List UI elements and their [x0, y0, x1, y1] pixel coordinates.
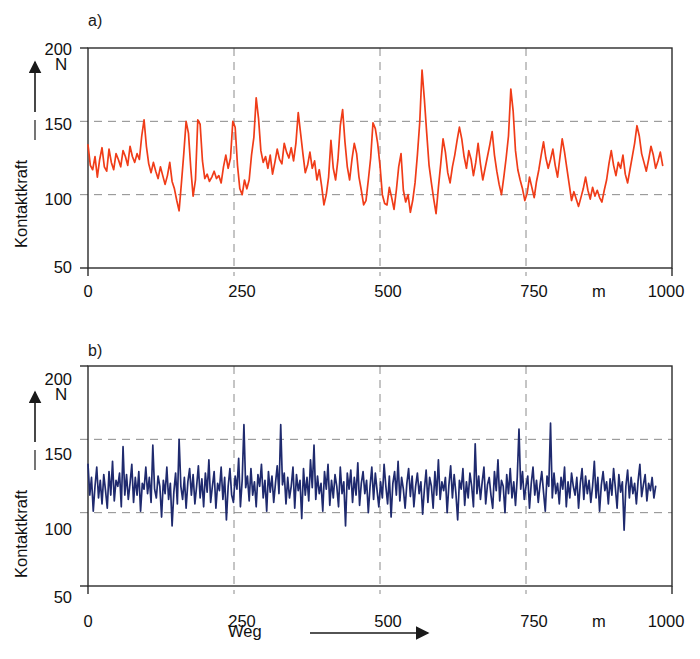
x-axis-arrow-svg: [308, 624, 440, 644]
chart-panel-a: a) Kontaktkraft N 200 150 100 50 0 250 5…: [0, 0, 700, 330]
data-trace-a: [88, 70, 663, 214]
plot-area-a: [0, 0, 700, 330]
gridlines-a: [80, 48, 672, 276]
tick-marks-a: [80, 48, 672, 276]
x-axis-title: Weg: [228, 622, 262, 641]
chart-panel-b: b) Kontaktkraft N 200 150 100 50 0 250 5…: [0, 330, 700, 659]
x-axis-arrow-container: [308, 624, 440, 644]
plot-area-b: [0, 330, 700, 659]
figure-container: a) Kontaktkraft N 200 150 100 50 0 250 5…: [0, 0, 700, 659]
